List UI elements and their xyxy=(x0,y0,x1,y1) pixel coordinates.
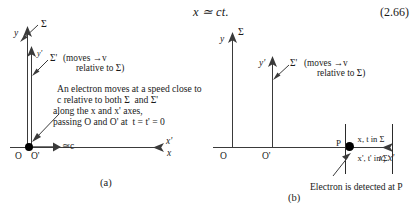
panel-b-detection-note: Electron is detected at P xyxy=(310,182,403,193)
panel-b-sigma-prime-leader-arrow xyxy=(272,64,294,86)
panel-b-event-point-label: P xyxy=(336,138,341,149)
panel-b-moves-note-line2: relative to Σ) xyxy=(317,68,365,79)
panel-a-x-prime-label: x' xyxy=(166,136,172,146)
panel-a-description-line4: passing O and O' at t = t' = 0 xyxy=(53,117,165,128)
panel-a-moves-note-line1: (moves →v xyxy=(63,53,107,64)
panel-a-x-axis-arrowhead xyxy=(153,141,167,155)
panel-a-x-label: x xyxy=(167,148,171,158)
panel-a-origin-label: O xyxy=(15,151,22,162)
equation-number: (2.66) xyxy=(380,5,409,20)
panel-b-detection-leader-arrow xyxy=(329,152,355,180)
panel-a-speed-label: ≃c xyxy=(62,141,74,152)
panel-b-y-prime-label: y' xyxy=(259,58,265,68)
equation-expression: x ≃ ct. xyxy=(193,4,229,20)
panel-a-description-leader-arrow xyxy=(27,112,63,146)
panel-a-sigma-leader-arrow xyxy=(18,23,44,45)
panel-b-origin-label: O xyxy=(220,151,227,162)
panel-b-coords-line1: x, t in Σ xyxy=(358,134,385,144)
panel-b-y-axis xyxy=(232,36,233,147)
panel-a-origin-prime-label: O' xyxy=(31,151,40,162)
panel-b-y-label: y xyxy=(220,34,224,44)
panel-a-moves-note-line2: relative to Σ) xyxy=(76,63,124,74)
panel-b-frame-sigma-label: Σ xyxy=(238,26,244,38)
panel-a-y-prime-label: y' xyxy=(37,49,42,58)
panel-b-origin-prime-label: O' xyxy=(262,151,271,162)
panel-b-moves-note-line1: (moves →v xyxy=(304,58,348,69)
panel-b-coords-line2: x', t' in Σ' xyxy=(358,153,390,163)
panel-b-caption: (b) xyxy=(288,192,300,203)
panel-b: y y' x, x' O O' P Σ Σ' (moves →v relativ… xyxy=(205,20,417,204)
panel-a-sigma-prime-leader-arrow xyxy=(30,59,52,81)
panel-a: ≃c y y' x' x O O' Σ Σ' (moves →v relativ… xyxy=(0,20,205,204)
panel-a-caption: (a) xyxy=(100,177,112,188)
